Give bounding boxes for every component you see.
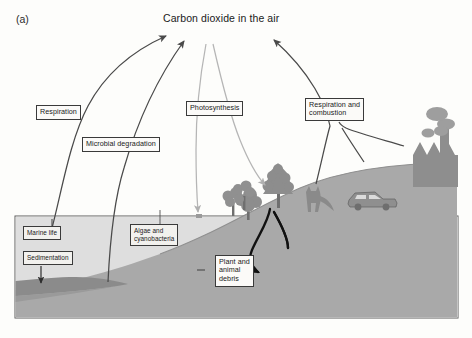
label-microbial-degradation: Microbial degradation — [82, 137, 160, 152]
label-respiration: Respiration — [36, 105, 81, 120]
carbon-cycle-scene — [0, 0, 472, 338]
algae-marker — [196, 214, 202, 218]
arrow-photosynthesis-algae — [196, 44, 206, 212]
label-respiration-and-combustion: Respiration and combustion — [305, 98, 364, 121]
panel-letter: (a) — [16, 13, 29, 25]
carbon-cycle-figure: (a) Carbon dioxide in the air Respiratio… — [0, 0, 472, 338]
figure-title: Carbon dioxide in the air — [163, 12, 279, 24]
label-photosynthesis: Photosynthesis — [186, 101, 243, 116]
smoke-plume — [422, 107, 456, 138]
tree-edge-left — [223, 187, 245, 216]
label-sedimentation: Sedimentation — [23, 251, 73, 265]
arrow-respcomb-factory — [339, 122, 404, 162]
label-marine-life: Marine life — [23, 226, 61, 240]
arrow-respiration — [52, 36, 166, 228]
label-plant-and-animal-debris: Plant and animal debris — [215, 255, 254, 287]
factory — [413, 126, 458, 187]
label-algae-and-cyanobacteria: Algae and cyanobacteria — [130, 224, 178, 246]
